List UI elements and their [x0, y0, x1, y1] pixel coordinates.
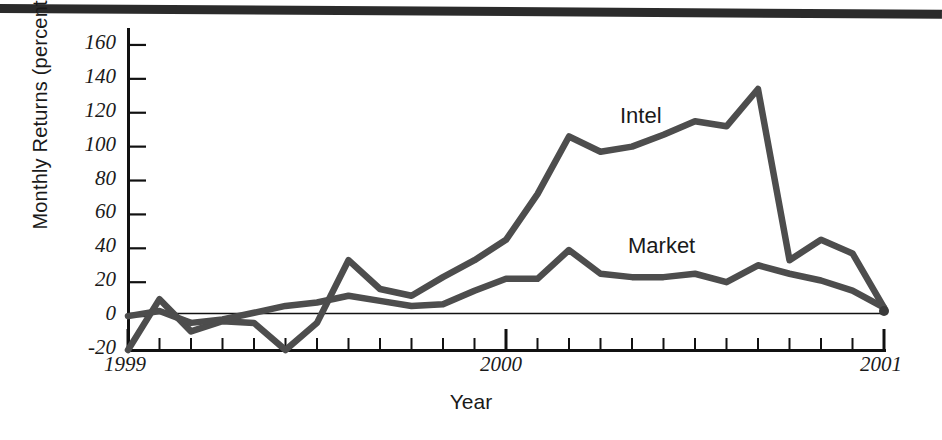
y-axis-ticks [129, 45, 146, 316]
chart-figure: Monthly Returns (percent) Year 160140120… [0, 0, 942, 440]
axis-lines [127, 28, 886, 351]
series-line-market [128, 250, 884, 323]
series-line-intel [128, 89, 884, 350]
plot-canvas [0, 0, 942, 440]
series-end-marker [879, 306, 889, 316]
data-series-paths [128, 89, 884, 350]
x-axis-ticks [128, 329, 884, 349]
